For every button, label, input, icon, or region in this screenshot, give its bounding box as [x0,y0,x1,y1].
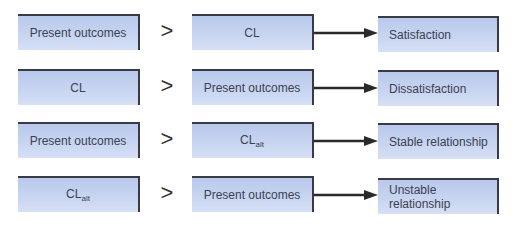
row4-result-label: Unstable relationship [389,183,497,211]
row2-left-label: CL [70,81,85,95]
row3-middle-box: CLalt [192,122,314,158]
row3-left-box: Present outcomes [18,122,140,158]
row2-result-box: Dissatisfaction [378,70,499,106]
row2-middle-label: Present outcomes [204,81,301,95]
row2-result-label: Dissatisfaction [389,82,466,96]
row4-arrow-icon [314,190,378,200]
row2-greater-than: > [157,75,177,97]
row2-left-box: CL [18,69,140,105]
row1-greater-than: > [157,20,177,42]
row3-greater-than: > [157,128,177,150]
row1-result-label: Satisfaction [389,28,451,42]
row4-left-subscript: alt [81,194,89,203]
row4-left-label: CLalt [66,187,90,203]
row2-middle-box: Present outcomes [192,69,314,105]
row3-result-box: Stable relationship [378,123,499,159]
row3-result-label: Stable relationship [389,135,488,149]
row1-middle-box: CL [192,14,314,50]
row1-middle-label: CL [244,26,259,40]
row3-arrow-icon [314,136,378,146]
row3-middle-subscript: alt [255,140,263,149]
row3-left-label: Present outcomes [30,134,127,148]
row1-left-box: Present outcomes [18,14,140,50]
row4-result-box: Unstable relationship [378,178,499,214]
row3-middle-label: CLalt [240,133,264,149]
row1-arrow-icon [314,28,378,38]
row1-result-box: Satisfaction [378,16,499,52]
row4-middle-box: Present outcomes [192,176,314,212]
row4-greater-than: > [157,182,177,204]
row4-middle-label: Present outcomes [204,188,301,202]
row1-left-label: Present outcomes [30,26,127,40]
row4-left-box: CLalt [18,176,140,212]
row2-arrow-icon [314,83,378,93]
